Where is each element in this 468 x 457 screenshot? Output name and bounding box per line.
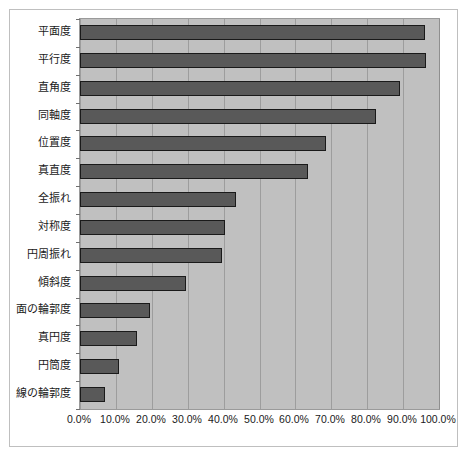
category-label: 線の輪郭度: [10, 380, 74, 408]
value-tick-label: 20.0%: [136, 413, 166, 425]
value-tick-label: 40.0%: [208, 413, 238, 425]
category-label: 同軸度: [10, 102, 74, 130]
bar: [80, 136, 326, 151]
category-label: 対称度: [10, 213, 74, 241]
bar-slot: [80, 186, 439, 214]
value-tick-label: 50.0%: [244, 413, 274, 425]
bar-series: [80, 19, 439, 409]
bar: [80, 387, 105, 402]
value-tick-label: 30.0%: [172, 413, 202, 425]
category-label: 真円度: [10, 324, 74, 352]
value-tick-label: 10.0%: [100, 413, 130, 425]
category-label: 平面度: [10, 18, 74, 46]
bar: [80, 25, 425, 40]
bar: [80, 81, 400, 96]
bar-slot: [80, 214, 439, 242]
bar: [80, 303, 150, 318]
category-label: 円筒度: [10, 352, 74, 380]
bar-slot: [80, 297, 439, 325]
bar-slot: [80, 19, 439, 47]
value-tick-label: 0.0%: [67, 413, 91, 425]
category-label: 直角度: [10, 74, 74, 102]
bar: [80, 248, 222, 263]
value-tick-label: 70.0%: [315, 413, 345, 425]
plot-area: [79, 18, 440, 410]
bar-slot: [80, 103, 439, 131]
bar: [80, 276, 186, 291]
bar-slot: [80, 75, 439, 103]
category-label: 面の輪郭度: [10, 296, 74, 324]
bar-slot: [80, 130, 439, 158]
category-label: 平行度: [10, 46, 74, 74]
chart-frame: 平面度平行度直角度同軸度位置度真直度全振れ対称度円周振れ傾斜度面の輪郭度真円度円…: [9, 9, 458, 447]
category-label: 傾斜度: [10, 269, 74, 297]
bar-slot: [80, 158, 439, 186]
gridline: [439, 19, 440, 409]
bar: [80, 220, 225, 235]
value-tick-label: 90.0%: [387, 413, 417, 425]
bar: [80, 164, 308, 179]
value-tick-label: 100.0%: [420, 413, 456, 425]
category-label: 真直度: [10, 157, 74, 185]
bar: [80, 331, 137, 346]
axis-tick: [76, 409, 80, 410]
bar-slot: [80, 242, 439, 270]
category-label: 全振れ: [10, 185, 74, 213]
bar-slot: [80, 270, 439, 298]
bar: [80, 192, 236, 207]
bar-slot: [80, 381, 439, 409]
category-label: 位置度: [10, 129, 74, 157]
value-axis-labels: 0.0%10.0%20.0%30.0%40.0%50.0%60.0%70.0%8…: [79, 413, 438, 429]
bar-slot: [80, 325, 439, 353]
category-axis-labels: 平面度平行度直角度同軸度位置度真直度全振れ対称度円周振れ傾斜度面の輪郭度真円度円…: [10, 18, 74, 408]
bar-slot: [80, 47, 439, 75]
bar-slot: [80, 353, 439, 381]
bar: [80, 359, 119, 374]
bar: [80, 53, 426, 68]
bar: [80, 109, 376, 124]
value-tick-label: 80.0%: [351, 413, 381, 425]
category-label: 円周振れ: [10, 241, 74, 269]
value-tick-label: 60.0%: [279, 413, 309, 425]
